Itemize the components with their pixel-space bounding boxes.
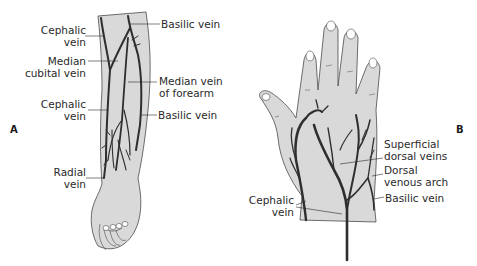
- label-radial-vein: Radial vein: [40, 166, 86, 190]
- label-median-vein-of-forearm: Median vein of forearm: [159, 75, 223, 99]
- vein-anatomy-figure: A Cephalic vein Basilic vein Median cubi…: [0, 0, 477, 266]
- label-cephalic-vein-lower: Cephalic vein: [32, 98, 86, 122]
- panel-a-letter: A: [10, 124, 18, 135]
- label-cephalic-vein-hand: Cephalic vein: [240, 194, 294, 218]
- label-basilic-vein-hand: Basilic vein: [385, 192, 444, 204]
- label-cephalic-vein-upper: Cephalic vein: [32, 24, 86, 48]
- label-superficial-dorsal-veins: Superficial dorsal veins: [384, 138, 447, 162]
- label-basilic-vein-upper: Basilic vein: [161, 18, 220, 30]
- label-basilic-vein-lower: Basilic vein: [158, 109, 217, 121]
- panel-b-letter: B: [456, 124, 464, 135]
- forearm-drawing: [85, 12, 160, 250]
- label-dorsal-venous-arch: Dorsal venous arch: [384, 164, 448, 188]
- label-median-cubital-vein: Median cubital vein: [20, 55, 86, 79]
- hand-drawing: [260, 21, 384, 260]
